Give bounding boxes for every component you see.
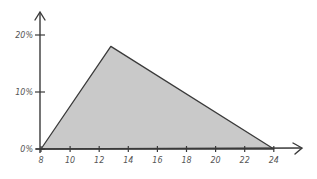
area-series	[41, 46, 274, 149]
x-tick-label: 18	[181, 156, 191, 165]
x-tick-label: 16	[152, 156, 162, 165]
y-tick-label: 20%	[15, 31, 33, 40]
chart-canvas: 81012141618202224 0%10%20%	[0, 0, 317, 179]
x-axis	[36, 148, 301, 149]
x-tick-label: 20	[211, 156, 221, 165]
x-tick-label: 22	[240, 156, 250, 165]
y-tick-label: 10%	[15, 88, 33, 97]
area-fill	[41, 46, 274, 149]
triangle-area-chart: 81012141618202224 0%10%20%	[0, 0, 317, 179]
x-tick-label: 14	[123, 156, 133, 165]
x-tick-label: 8	[38, 156, 43, 165]
y-tick-label: 0%	[20, 145, 33, 154]
x-tick-label: 12	[94, 156, 104, 165]
x-tick-label: 10	[65, 156, 75, 165]
x-tick-label: 24	[269, 156, 279, 165]
